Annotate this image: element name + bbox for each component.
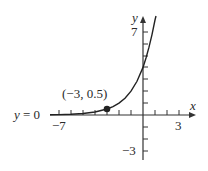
y-axis-label: y xyxy=(130,10,138,25)
x-min-label: −7 xyxy=(52,118,66,133)
point-label: (−3, 0.5) xyxy=(62,86,107,101)
asymptote-label: y = 0 xyxy=(12,107,40,122)
y-axis-arrow-icon xyxy=(140,16,146,23)
y-axis xyxy=(140,16,146,160)
y-max-label: 7 xyxy=(131,24,138,39)
x-axis-label: x xyxy=(189,98,196,113)
x-max-label: 3 xyxy=(175,118,182,133)
highlighted-point xyxy=(104,106,111,113)
y-min-label: −3 xyxy=(122,143,136,158)
graph: (−3, 0.5) y = 0 −7 3 7 −3 x y xyxy=(0,0,208,171)
y-ticks xyxy=(143,32,148,151)
